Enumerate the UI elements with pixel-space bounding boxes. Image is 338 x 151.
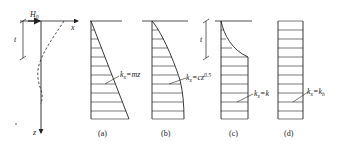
- z-axis-label: z: [32, 128, 37, 137]
- hatch-lines: [278, 21, 303, 119]
- leader-line: [293, 92, 308, 102]
- leader-line: [237, 94, 253, 102]
- panel-d: kx=kh (d): [278, 21, 325, 138]
- depth-label: t: [14, 35, 17, 44]
- profile-curve: [221, 21, 248, 119]
- x-axis-label: x: [70, 23, 75, 32]
- formula-b: kx=cz0.5: [186, 72, 211, 83]
- profile-curve: [152, 21, 184, 119]
- formula-c: kx=k: [254, 89, 269, 99]
- caption-a: (a): [98, 129, 107, 138]
- force-label: H0: [29, 10, 39, 20]
- dot-mark: [15, 123, 17, 125]
- panel-c: t kx=k (c): [200, 19, 269, 138]
- formula-d: kx=kh: [307, 87, 325, 97]
- leader-line: [105, 76, 119, 84]
- depth-label-c: t: [200, 35, 203, 44]
- caption-d: (d): [284, 129, 294, 138]
- soil-reaction-diagram: H0 x z t kx=mz (a): [0, 0, 338, 151]
- leader-line: [169, 78, 186, 84]
- formula-a: kx=mz: [120, 70, 141, 80]
- pile-deflection-diagram: H0 x z t: [14, 10, 78, 137]
- caption-c: (c): [229, 129, 238, 138]
- deflection-curve: [38, 21, 64, 104]
- panel-a: kx=mz (a): [90, 21, 141, 138]
- hatch-lines: [152, 30, 184, 119]
- hatch-lines: [221, 30, 248, 119]
- caption-b: (b): [161, 129, 171, 138]
